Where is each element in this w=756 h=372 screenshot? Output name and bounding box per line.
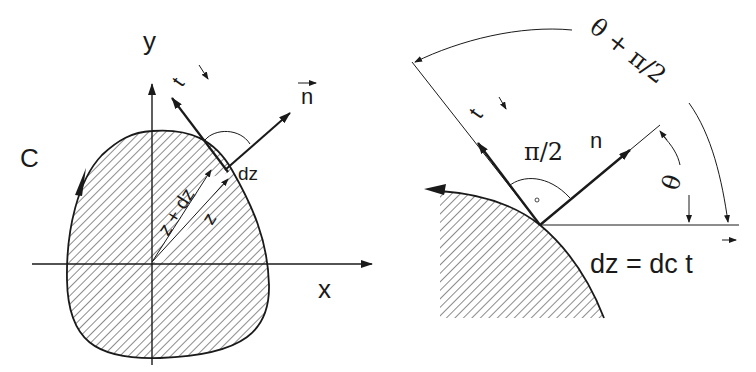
contour-region-detail: [440, 191, 604, 318]
normal-label: n: [590, 128, 602, 153]
theta-plus-label: θ + π/2: [584, 13, 671, 90]
theta-plus-arc-right: [689, 103, 728, 222]
theta-plus-arc-left: [415, 29, 572, 62]
normal-label: n: [301, 84, 313, 109]
theta-arc: [662, 135, 680, 165]
tangent-label: t: [464, 104, 488, 123]
tangent-label: t: [167, 73, 188, 91]
theta-label: θ: [656, 171, 687, 194]
left-figure: y x C dz n t z + dz z: [20, 26, 372, 365]
contour-direction-arrow: [424, 184, 446, 195]
right-angle-arc: [205, 131, 250, 144]
right-angle-label: π/2: [524, 138, 563, 166]
equation-label: dz = dc t: [590, 249, 693, 279]
increment-label: dz: [238, 163, 258, 184]
tangent-overarrow: [199, 65, 208, 79]
y-axis-label: y: [143, 26, 156, 56]
diagram-canvas: y x C dz n t z + dz z: [0, 0, 756, 372]
tangent-overarrow: [499, 97, 506, 109]
normal-vector: [225, 113, 290, 170]
right-figure: θ + π/2 π/2 n θ t dz = dc t: [412, 13, 739, 318]
contour-label: C: [20, 143, 39, 173]
x-axis-label: x: [318, 274, 331, 304]
theta-arrow-upper: [660, 131, 667, 140]
right-angle-dot: [535, 198, 539, 202]
